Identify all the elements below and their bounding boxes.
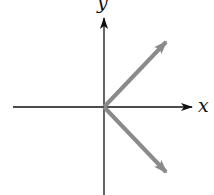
vector-down-right (104, 107, 166, 172)
y-axis-label: y (97, 0, 108, 12)
x-axis-label: x (198, 96, 209, 115)
diagram-canvas (0, 0, 214, 195)
vector-up-right (104, 42, 166, 107)
